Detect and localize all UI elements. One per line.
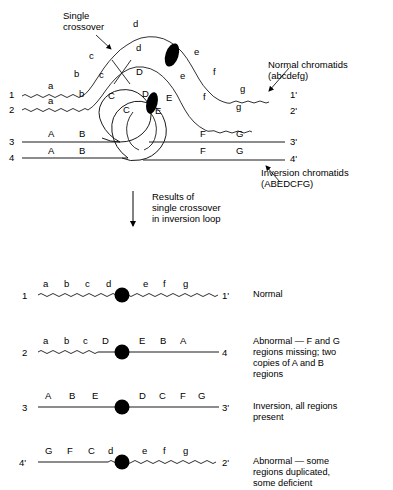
gene-label-2-a: a	[48, 95, 53, 106]
result-row-4-left-number: 4'	[19, 457, 26, 468]
loop-twist-2	[144, 112, 156, 150]
strand-number-left-4: 4	[9, 152, 14, 163]
gene-label-4-G: G	[236, 145, 243, 156]
result-row-1-gene-3: d	[106, 278, 111, 289]
result-row-4-gene-1: F	[67, 445, 73, 456]
strand-number-left-2: 2	[9, 104, 14, 115]
result-row-2-left-number: 2	[22, 347, 27, 358]
gene-label-2-e: e	[180, 70, 185, 81]
strand-number-left-3: 3	[9, 136, 14, 147]
normal-chromatids-label: Normal chromatids (abcdefg)	[268, 59, 348, 81]
gene-label-3-A: A	[48, 128, 54, 139]
result-row-3-left-number: 3	[22, 402, 27, 413]
result-row-4-gene-4: e	[142, 445, 147, 456]
result-row-1-left-number: 1	[22, 290, 27, 301]
result-row-1-right-number: 1'	[222, 290, 229, 301]
result-row-1-gene-5: f	[163, 278, 166, 289]
gene-label-1-g: g	[240, 83, 245, 94]
gene-label-4-C: C	[123, 104, 130, 115]
result-row-4-gene-2: C	[88, 445, 95, 456]
centromere-row-1	[115, 288, 130, 303]
result-row-4-right-number: 2'	[222, 457, 229, 468]
gene-label-2-c: c	[99, 69, 104, 80]
result-row-4-gene-3: d	[108, 445, 113, 456]
gene-label-1-b: b	[74, 68, 79, 79]
gene-label-2-g: g	[236, 101, 241, 112]
result-row-2-wavy	[38, 351, 98, 354]
centromere-row-3	[115, 400, 130, 415]
gene-label-4-A: A	[48, 145, 54, 156]
result-row-4-gene-5: f	[163, 445, 166, 456]
result-row-3-gene-2: E	[92, 390, 98, 401]
gene-label-3-E: E	[166, 92, 172, 103]
result-row-1-description: Normal	[253, 289, 283, 300]
results-arrow-label: Results of single crossover in inversion…	[152, 191, 221, 225]
single-crossover-label: Single crossover	[63, 10, 104, 32]
gene-label-3-B: B	[79, 128, 85, 139]
result-row-4-gene-0: G	[45, 445, 52, 456]
result-row-4-gene-6: g	[183, 445, 188, 456]
gene-label-2-d: d	[136, 42, 141, 53]
gene-label-1-a: a	[48, 80, 53, 91]
centromere-top-1	[162, 42, 182, 69]
result-row-1-gene-4: e	[143, 278, 148, 289]
result-row-2-gene-4: E	[139, 335, 145, 346]
strand-number-right-2: 2'	[290, 105, 297, 116]
crossover-x	[112, 60, 131, 84]
gene-label-3-F: F	[200, 128, 206, 139]
gene-label-4-D: D	[142, 88, 149, 99]
gene-label-4-E: E	[155, 105, 161, 116]
centromere-group-top	[144, 42, 182, 115]
strand-number-right-4: 4'	[290, 153, 297, 164]
result-row-1-gene-2: c	[85, 278, 90, 289]
single-crossover-arrow	[96, 35, 111, 49]
gene-label-2-b: b	[79, 88, 84, 99]
gene-label-1-d: d	[133, 18, 138, 29]
inversion-chromatids-label: Inversion chromatids (ABEDCFG)	[261, 167, 349, 189]
gene-label-3-G: G	[236, 128, 243, 139]
result-row-1-gene-6: g	[183, 278, 188, 289]
centromere-row-4	[115, 455, 130, 470]
result-row-2-gene-5: B	[160, 335, 166, 346]
gene-label-1-e: e	[194, 46, 199, 57]
result-row-2-gene-0: a	[43, 335, 48, 346]
gene-label-4-B: B	[79, 145, 85, 156]
result-row-2-right-number: 4	[222, 347, 227, 358]
gene-label-2-f: f	[203, 91, 206, 102]
result-row-3-gene-5: F	[180, 390, 186, 401]
result-row-3-right-number: 3'	[222, 402, 229, 413]
result-row-2-gene-6: A	[180, 335, 186, 346]
figure-canvas: Single crossover Normal chromatids (abcd…	[0, 0, 393, 490]
result-row-1-gene-0: a	[43, 278, 48, 289]
gene-label-1-f: f	[213, 66, 216, 77]
strand-number-right-3: 3'	[290, 136, 297, 147]
result-row-2-gene-2: c	[83, 335, 88, 346]
loop-twist	[127, 112, 139, 150]
gene-label-3-D: D	[136, 66, 143, 77]
strand-number-right-1: 1'	[290, 89, 297, 100]
result-row-2-gene-3: D	[102, 335, 109, 346]
result-row-1-gene-1: b	[64, 278, 69, 289]
result-row-3-gene-6: G	[198, 390, 205, 401]
result-row-3-gene-3: D	[139, 390, 146, 401]
result-row-3-gene-1: B	[69, 390, 75, 401]
gene-label-1-c: c	[89, 50, 94, 61]
result-row-3-description: Inversion, all regions present	[253, 401, 337, 423]
result-row-2-description: Abnormal — F and G regions missing; two …	[253, 336, 340, 379]
strand-number-left-1: 1	[9, 89, 14, 100]
gene-label-4-F: F	[200, 145, 206, 156]
gene-label-3-C: C	[108, 90, 115, 101]
result-row-4-description: Abnormal — some regions duplicated, some…	[253, 456, 330, 489]
centromere-group-results	[115, 288, 130, 470]
result-row-3-gene-0: A	[45, 390, 51, 401]
result-row-2-gene-1: b	[64, 335, 69, 346]
result-row-3-gene-4: C	[159, 390, 166, 401]
centromere-row-2	[115, 345, 130, 360]
